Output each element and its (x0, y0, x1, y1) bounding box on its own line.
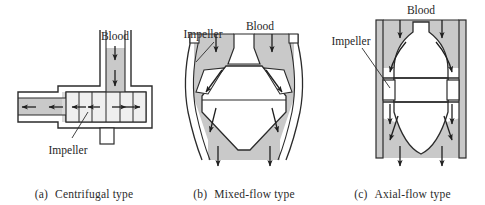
caption-axial-flow: (c)Axial-flow type (320, 188, 485, 200)
mixed-flow-diagram: Impeller Blood (168, 0, 320, 180)
blade-left-c (383, 80, 395, 100)
impeller-label-b: Impeller (184, 28, 223, 41)
tube-wall-left-c (376, 20, 383, 158)
caption-mixed-flow: (b)Mixed-flow type (168, 188, 320, 200)
caption-text-a: Centrifugal type (55, 188, 133, 200)
caption-text-c: Axial-flow type (375, 188, 451, 200)
panel-centrifugal: Blood Impeller (a)Centrifugal type (0, 0, 168, 205)
caption-centrifugal: (a)Centrifugal type (0, 188, 168, 200)
caption-text-b: Mixed-flow type (214, 188, 295, 200)
blood-label-c: Blood (407, 4, 435, 16)
caption-index-a: (a) (35, 188, 48, 200)
impeller-label-a: Impeller (49, 144, 88, 157)
impeller-label-c: Impeller (332, 35, 371, 48)
panel-mixed-flow: Impeller Blood (b)Mixed-flow type (168, 0, 320, 205)
tube-wall-right-c (459, 20, 466, 158)
caption-index-b: (b) (193, 188, 207, 200)
blood-label-b: Blood (246, 20, 274, 32)
rotor-hub-c (394, 78, 448, 102)
centrifugal-diagram: Blood Impeller (0, 0, 168, 180)
axial-flow-diagram: Blood Impeller (320, 0, 485, 180)
caption-index-c: (c) (354, 188, 367, 200)
panel-axial-flow: Blood Impeller (c)Axial-flow type (320, 0, 485, 205)
figure-container: Blood Impeller (a)Centrifugal type (0, 0, 485, 205)
blood-label-a: Blood (101, 30, 129, 42)
flange-right-b (289, 34, 298, 43)
housing-inner-left-a (18, 30, 106, 98)
shaft-stub-a (100, 128, 114, 144)
blade-right-c (447, 80, 459, 100)
